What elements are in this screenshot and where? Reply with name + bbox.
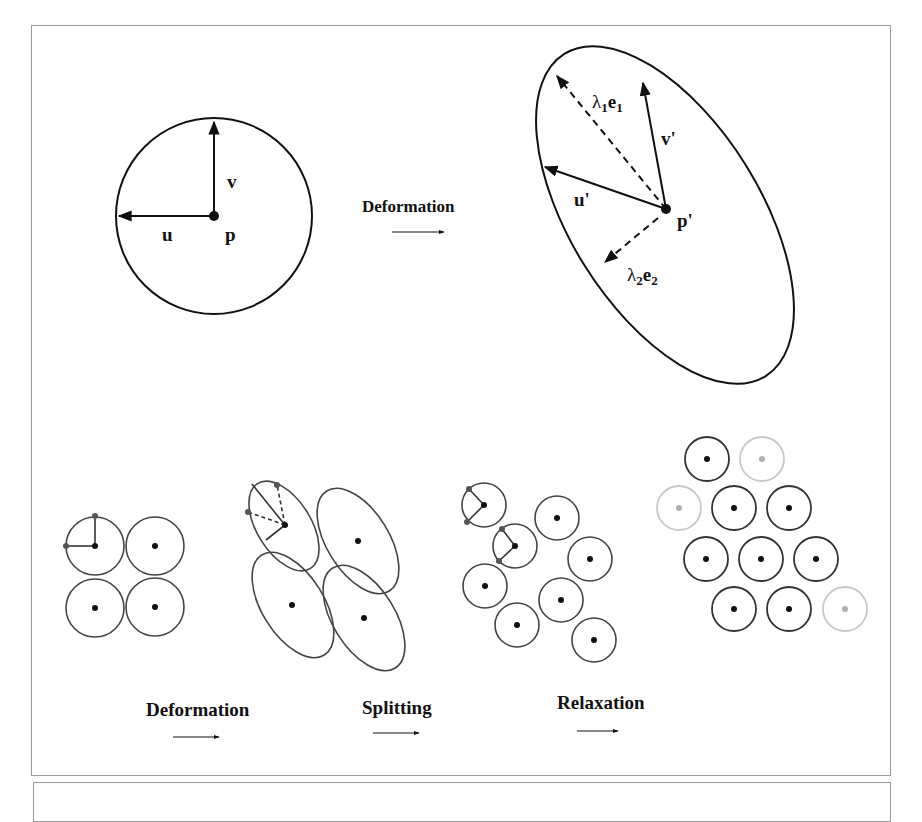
point-p-prime-label: p' (677, 210, 693, 231)
axis-endpoint-marker (245, 509, 251, 515)
particle-axis (469, 489, 484, 505)
particle-center (514, 622, 520, 628)
particle-axis (467, 505, 484, 522)
axis-endpoint-marker (274, 482, 280, 488)
deformation-transition-label: Deformation (362, 197, 455, 216)
particle-center (813, 556, 819, 562)
particle-center (558, 597, 564, 603)
particle-center (587, 556, 593, 562)
particle-center-faded (842, 606, 848, 612)
particle-center (703, 556, 709, 562)
step-label-relaxation: Relaxation (557, 692, 645, 713)
step-label-splitting: Splitting (362, 697, 432, 718)
particle-center (355, 538, 361, 544)
stage-deformed-ellipses (235, 469, 422, 684)
vector-u-prime-label: u' (574, 189, 590, 210)
particle-center (282, 522, 288, 528)
step-label-deformation: Deformation (146, 699, 250, 720)
point-p-prime-dot (661, 204, 671, 214)
eigen2-dashed-arrow (605, 218, 658, 262)
axis-endpoint-marker (63, 543, 69, 549)
particle-center (482, 583, 488, 589)
deformed-ellipse (484, 4, 846, 427)
particle-center-faded (759, 456, 765, 462)
vector-u-label: u (162, 224, 173, 245)
particle-center (591, 637, 597, 643)
deformed-ellipse-group: λ1e1 v' u' p' λ2e2 (484, 4, 846, 427)
vector-v-prime-label: v' (661, 128, 676, 149)
particle-center (152, 604, 158, 610)
particle-center (731, 606, 737, 612)
eigen2-label: λ2e2 (627, 264, 658, 288)
axis-endpoint-marker (466, 486, 472, 492)
vector-v-label: v (227, 171, 237, 192)
particle-center (786, 606, 792, 612)
particle-center (92, 543, 98, 549)
particle-minor-axis (266, 525, 285, 540)
axis-endpoint-marker (464, 519, 470, 525)
particle-center (152, 543, 158, 549)
particle-center (758, 556, 764, 562)
stage-initial-circles (66, 516, 184, 637)
particle-center (554, 515, 560, 521)
particle-axis (499, 546, 515, 561)
axis-endpoint-marker (499, 526, 505, 532)
undeformed-circle-group: v u p (116, 118, 312, 314)
axis-endpoint-marker (92, 513, 98, 519)
stage-relaxed-circles (657, 437, 867, 631)
particle-center (92, 605, 98, 611)
particle-center (512, 543, 518, 549)
particle-center (704, 456, 710, 462)
eigen1-label: λ1e1 (592, 91, 623, 115)
point-p-label: p (225, 224, 236, 245)
particle-axis (502, 529, 515, 546)
particle-center (786, 505, 792, 511)
point-p-dot (209, 211, 219, 221)
particle-center (361, 615, 367, 621)
particle-center-faded (676, 505, 682, 511)
axis-endpoint-marker (496, 558, 502, 564)
stage-split-circles (462, 483, 616, 662)
particle-center (481, 502, 487, 508)
particle-center (289, 602, 295, 608)
particle-center (731, 505, 737, 511)
